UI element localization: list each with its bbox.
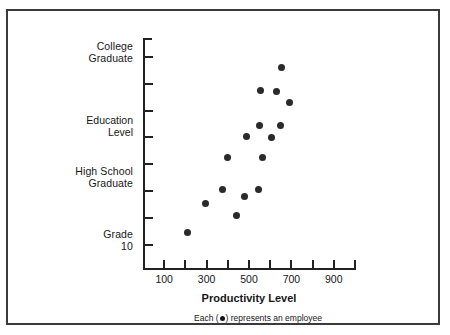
scatter-plot-figure: 100300500700900 College Graduate High Sc… xyxy=(0,0,450,335)
data-point xyxy=(257,87,264,94)
x-axis-title: Productivity Level xyxy=(143,292,355,304)
y-label-grade-10-line2: 10 xyxy=(23,241,133,253)
y-label-college-graduate-line1: College xyxy=(23,41,133,53)
data-point xyxy=(224,154,231,161)
x-axis-tick xyxy=(269,260,271,270)
data-point xyxy=(219,186,226,193)
y-axis-tick xyxy=(143,244,153,246)
x-axis-tick-label: 100 xyxy=(144,273,184,285)
y-label-high-school-graduate-line1: High School xyxy=(23,166,133,178)
y-axis-tick xyxy=(143,217,153,219)
data-point xyxy=(277,122,284,129)
x-axis-tick xyxy=(227,260,229,270)
data-point xyxy=(286,99,293,106)
y-label-college-graduate: College Graduate xyxy=(23,41,133,64)
y-axis-tick xyxy=(143,136,153,138)
y-label-high-school-graduate: High School Graduate xyxy=(23,166,133,189)
data-point xyxy=(233,212,240,219)
data-point xyxy=(259,154,266,161)
y-label-college-graduate-line2: Graduate xyxy=(23,53,133,65)
data-point xyxy=(243,133,250,140)
data-point xyxy=(241,193,248,200)
y-axis-title-line2: Level xyxy=(23,127,133,139)
y-axis-tick xyxy=(143,56,153,58)
x-axis-tick-label: 300 xyxy=(187,273,227,285)
x-axis-tick-label: 700 xyxy=(271,273,311,285)
data-point xyxy=(273,88,280,95)
plot-area: 100300500700900 College Graduate High Sc… xyxy=(0,0,450,335)
y-axis-top-cap xyxy=(143,38,152,40)
x-axis-tick-label: 500 xyxy=(229,273,269,285)
data-point xyxy=(268,134,275,141)
x-axis-tick xyxy=(354,260,356,270)
caption-suffix: ) represents an employee xyxy=(226,313,322,323)
y-axis-tick xyxy=(143,110,153,112)
y-label-grade-10: Grade 10 xyxy=(23,229,133,252)
employee-dot-icon xyxy=(220,316,225,321)
y-axis-line xyxy=(143,38,145,270)
data-point xyxy=(256,122,263,129)
x-axis-tick xyxy=(184,260,186,270)
y-axis-title: Education Level xyxy=(23,115,133,138)
chart-caption: Each () represents an employee xyxy=(143,313,373,323)
y-axis-title-line1: Education xyxy=(23,115,133,127)
y-axis-tick xyxy=(143,190,153,192)
y-axis-tick xyxy=(143,163,153,165)
x-axis-tick xyxy=(290,260,292,270)
y-label-grade-10-line1: Grade xyxy=(23,229,133,241)
data-point xyxy=(184,229,191,236)
x-axis-tick xyxy=(333,260,335,270)
x-axis-tick xyxy=(206,260,208,270)
x-axis-tick xyxy=(312,260,314,270)
y-axis-tick xyxy=(143,83,153,85)
data-point xyxy=(278,64,285,71)
x-axis-tick xyxy=(248,260,250,270)
x-axis-tick xyxy=(163,260,165,270)
caption-prefix: Each ( xyxy=(194,313,219,323)
data-point xyxy=(255,186,262,193)
y-label-high-school-graduate-line2: Graduate xyxy=(23,178,133,190)
data-point xyxy=(202,200,209,207)
x-axis-tick-label: 900 xyxy=(314,273,354,285)
